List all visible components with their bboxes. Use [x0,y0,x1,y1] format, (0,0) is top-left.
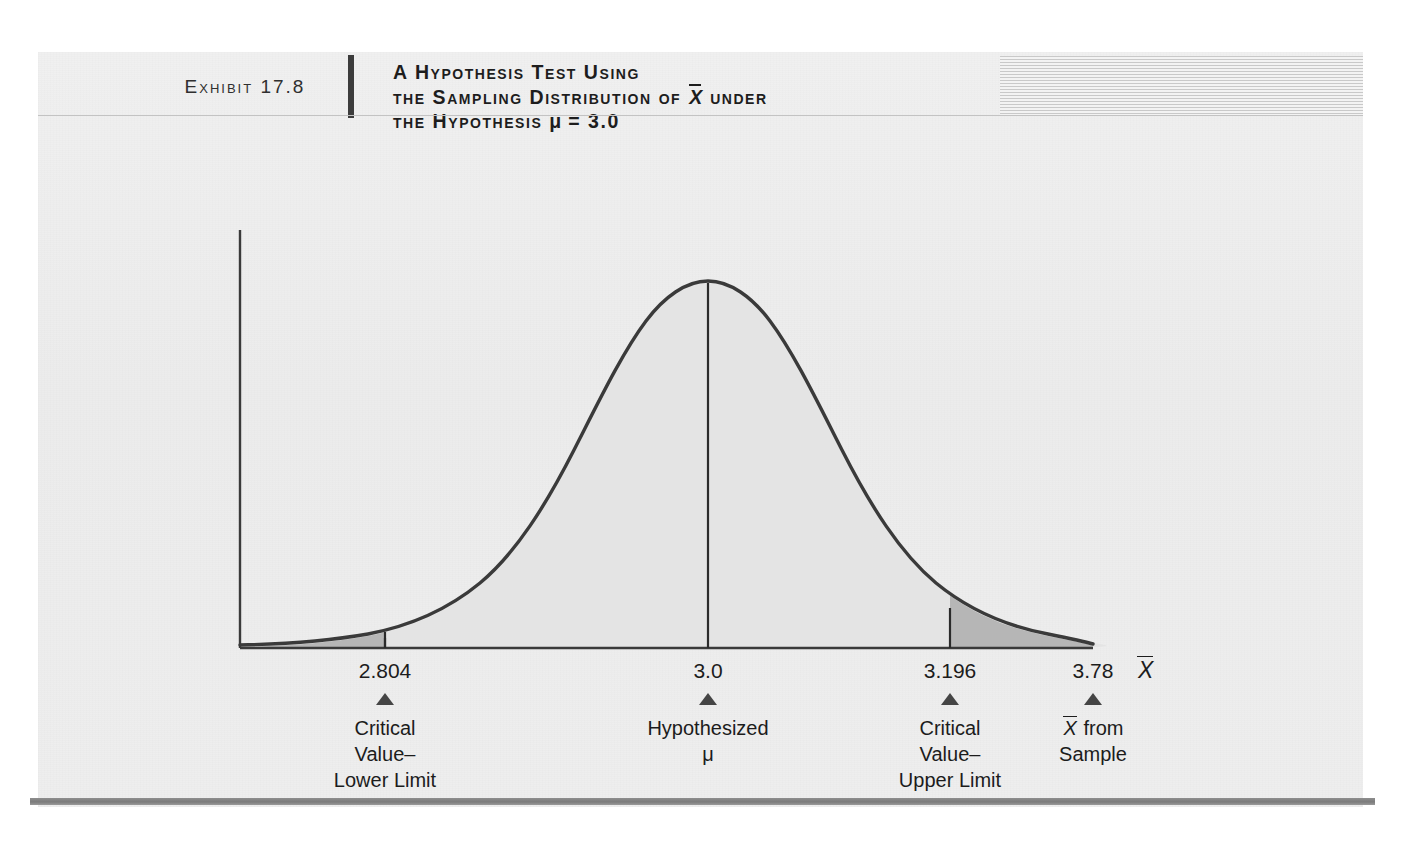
chart-plot-area: 2.804 3.0 3.196 3.78 X Critical Value– L… [38,115,1363,807]
marker-triangle-upper-critical [941,693,959,705]
caption-xbar-symbol: X [1063,717,1078,739]
caption-lower-critical: Critical Value– Lower Limit [270,715,500,793]
exhibit-number-label: Exhibit 17.8 [100,76,390,98]
curve-body-fill [240,283,1106,647]
exhibit-panel: Exhibit 17.8 A Hypothesis Test Usingthe … [38,52,1363,807]
tick-label-lower-critical: 2.804 [359,659,412,683]
header-stripe-block [1000,56,1363,115]
marker-triangle-sample-mean [1084,693,1102,705]
title-line-2-pre: the Sampling Distribution of [393,86,688,108]
title-xbar-symbol: X [688,86,703,108]
caption-hypothesized-mean: Hypothesized μ [578,715,838,767]
marker-triangle-lower-critical [376,693,394,705]
page-bottom-rule [30,798,1375,805]
exhibit-header: Exhibit 17.8 A Hypothesis Test Usingthe … [38,52,1363,115]
marker-triangle-mean [699,693,717,705]
tick-label-upper-critical: 3.196 [924,659,977,683]
title-line-2-post: under [703,86,768,108]
x-axis-variable-label: X [1136,657,1155,684]
tick-label-mean: 3.0 [693,659,722,683]
caption-sample-mean: X from Sample [993,715,1193,767]
title-line-1: A Hypothesis Test Using [393,61,640,83]
x-axis-xbar-symbol: X [1136,657,1155,683]
header-divider-bar [348,55,354,118]
tick-label-sample-mean: 3.78 [1073,659,1114,683]
